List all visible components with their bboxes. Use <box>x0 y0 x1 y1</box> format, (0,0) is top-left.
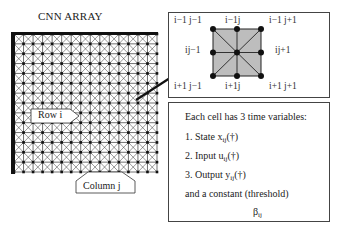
grid-node <box>127 82 130 85</box>
grid-node <box>108 141 111 144</box>
grid-node <box>89 161 92 164</box>
grid-node <box>108 102 111 105</box>
grid-node <box>51 151 54 154</box>
grid-node <box>41 151 44 154</box>
item-suffix: (†) <box>228 150 240 161</box>
grid-node <box>70 92 73 95</box>
info-heading: Each cell has 3 time variables: <box>185 111 307 122</box>
grid-node <box>89 62 92 65</box>
grid-node <box>79 151 82 154</box>
grid-node <box>108 62 111 65</box>
grid-node <box>22 171 25 174</box>
grid-node <box>32 92 35 95</box>
grid-node <box>146 141 149 144</box>
grid-node <box>60 102 63 105</box>
grid-node <box>146 121 149 124</box>
grid-node <box>137 52 140 55</box>
grid-node <box>60 151 63 154</box>
grid-node <box>118 92 121 95</box>
grid-node <box>127 161 130 164</box>
grid-node <box>89 52 92 55</box>
grid-node <box>99 72 102 75</box>
grid-node <box>118 62 121 65</box>
neighbor-node <box>210 26 216 32</box>
center-node <box>234 50 240 56</box>
grid-node <box>99 92 102 95</box>
item-text: 3. Output y <box>185 169 230 180</box>
grid-node <box>51 43 54 46</box>
grid-node <box>41 52 44 55</box>
grid-node <box>51 171 54 174</box>
grid-node <box>41 92 44 95</box>
grid-node <box>99 102 102 105</box>
grid-node <box>79 43 82 46</box>
grid-node <box>118 121 121 124</box>
grid-node <box>89 92 92 95</box>
info-item-output: 3. Output yij(†) <box>185 169 246 182</box>
grid-node <box>79 102 82 105</box>
grid-node <box>118 82 121 85</box>
grid-node <box>146 171 149 174</box>
grid-node <box>99 161 102 164</box>
grid-node <box>32 131 35 134</box>
grid-node <box>22 141 25 144</box>
grid-node <box>118 141 121 144</box>
grid-node <box>137 82 140 85</box>
grid-node <box>146 102 149 105</box>
grid-node <box>108 82 111 85</box>
grid-node <box>127 102 130 105</box>
grid-node <box>89 72 92 75</box>
grid-node <box>127 121 130 124</box>
grid-node <box>60 52 63 55</box>
grid-node <box>118 131 121 134</box>
grid-node <box>137 151 140 154</box>
grid-node <box>60 82 63 85</box>
grid-node <box>118 72 121 75</box>
grid-node <box>146 72 149 75</box>
grid-node <box>99 43 102 46</box>
grid-node <box>22 121 25 124</box>
grid-node <box>127 112 130 115</box>
grid-node <box>60 72 63 75</box>
grid-node <box>137 43 140 46</box>
grid-node <box>127 141 130 144</box>
grid-node <box>118 161 121 164</box>
grid-node <box>108 151 111 154</box>
grid-node <box>51 72 54 75</box>
grid-node <box>79 171 82 174</box>
grid-node <box>137 62 140 65</box>
grid-node <box>60 161 63 164</box>
grid-node <box>70 171 73 174</box>
grid-node <box>108 52 111 55</box>
grid-node <box>99 82 102 85</box>
grid-node <box>137 121 140 124</box>
grid-node <box>70 43 73 46</box>
grid-node <box>156 171 159 174</box>
grid-node <box>146 82 149 85</box>
grid-node <box>108 72 111 75</box>
grid-node <box>60 62 63 65</box>
grid-node <box>127 92 130 95</box>
grid-node <box>41 43 44 46</box>
info-item-input: 2. Input uij(†) <box>185 150 239 163</box>
neighbor-node <box>210 50 216 56</box>
neighbor-node <box>258 73 264 79</box>
grid-node <box>22 151 25 154</box>
row-callout-label: Row i <box>38 109 62 120</box>
grid-node <box>127 72 130 75</box>
info-constant-symbol: βij <box>253 206 262 219</box>
grid-node <box>156 82 159 85</box>
grid-node <box>137 141 140 144</box>
grid-node <box>137 72 140 75</box>
grid-node <box>89 112 92 115</box>
grid-node <box>70 151 73 154</box>
cell-variables-panel: Each cell has 3 time variables: 1. State… <box>168 102 330 222</box>
grid-node <box>146 62 149 65</box>
grid-node <box>108 43 111 46</box>
grid-node <box>32 62 35 65</box>
item-text: 2. Input u <box>185 150 224 161</box>
grid-node <box>89 102 92 105</box>
grid-node <box>89 43 92 46</box>
grid-node <box>32 102 35 105</box>
grid-node <box>99 131 102 134</box>
